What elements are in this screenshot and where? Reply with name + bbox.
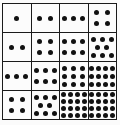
dot-cell-r4c3	[60, 91, 88, 119]
dot	[105, 21, 110, 26]
dot	[68, 92, 73, 97]
dot-grid	[2, 3, 117, 120]
dot	[80, 66, 85, 71]
dot	[5, 74, 10, 79]
dot	[96, 106, 101, 111]
dot	[43, 111, 48, 116]
dot	[104, 45, 109, 50]
dot-row	[37, 39, 53, 44]
dot-row	[61, 92, 87, 97]
dot	[48, 16, 53, 21]
dot-cell-r1c1	[3, 4, 31, 32]
dot	[94, 10, 99, 15]
dot	[48, 50, 53, 55]
dot-row	[37, 16, 53, 21]
dot	[109, 53, 114, 58]
dot	[96, 82, 101, 87]
dot	[23, 74, 28, 79]
dot	[61, 92, 66, 97]
dot	[52, 79, 57, 84]
dot	[61, 113, 66, 118]
dot-row	[62, 74, 85, 79]
dot-cell-r1c3	[60, 4, 88, 32]
dot	[37, 16, 42, 21]
dot	[96, 74, 101, 79]
dot-cell-r1c2	[32, 4, 60, 32]
dot	[34, 79, 39, 84]
dot-row	[38, 103, 52, 108]
dot	[9, 108, 14, 113]
dot	[96, 92, 101, 97]
dot	[80, 50, 85, 55]
dot	[62, 39, 67, 44]
dot-row	[89, 66, 115, 71]
dot	[14, 74, 19, 79]
dot	[80, 39, 85, 44]
dot-row	[62, 50, 85, 55]
dot	[103, 66, 108, 71]
dot	[37, 39, 42, 44]
dot-cell-r3c4	[89, 62, 117, 90]
dot	[14, 16, 19, 21]
dot-row	[89, 113, 115, 118]
dot	[43, 79, 48, 84]
dot	[75, 99, 80, 104]
dot	[89, 92, 94, 97]
dot	[103, 113, 108, 118]
dot-row	[91, 53, 114, 58]
dot	[68, 99, 73, 104]
dot	[109, 37, 114, 42]
dot-cell-r2c1	[3, 33, 31, 61]
dot	[110, 74, 115, 79]
dot	[75, 113, 80, 118]
dot-row	[61, 99, 87, 104]
dot	[71, 16, 76, 21]
dot	[34, 111, 39, 116]
dot	[62, 74, 67, 79]
dot	[91, 37, 96, 42]
dot-row	[34, 79, 57, 84]
dot	[89, 113, 94, 118]
dot	[89, 74, 94, 79]
figure-frame	[2, 3, 117, 120]
dot	[82, 92, 87, 97]
dot-row	[62, 82, 85, 87]
dot-row	[62, 66, 85, 71]
dot-row	[61, 106, 87, 111]
dot-cell-r4c4	[89, 91, 117, 119]
dot	[38, 103, 43, 108]
dot	[89, 82, 94, 87]
dot	[105, 10, 110, 15]
dot-row	[89, 99, 115, 104]
dot	[103, 106, 108, 111]
dot	[62, 66, 67, 71]
dot	[80, 82, 85, 87]
dot	[68, 113, 73, 118]
dot	[71, 66, 76, 71]
dot	[100, 37, 105, 42]
dot-row	[5, 74, 28, 79]
dot	[71, 50, 76, 55]
dot	[71, 82, 76, 87]
dot	[52, 95, 57, 100]
dot-cell-r4c1	[3, 91, 31, 119]
dot	[110, 106, 115, 111]
dot-cell-r2c3	[60, 33, 88, 61]
dot-row	[9, 97, 25, 102]
dot-cell-r4c2	[32, 91, 60, 119]
dot	[110, 99, 115, 104]
dot	[103, 99, 108, 104]
dot	[75, 92, 80, 97]
dot	[9, 45, 14, 50]
dot-row	[34, 111, 57, 116]
dot	[103, 82, 108, 87]
dot-row	[94, 10, 110, 15]
dot-row	[89, 74, 115, 79]
dot	[62, 50, 67, 55]
dot-cell-r3c2	[32, 62, 60, 90]
dot	[61, 106, 66, 111]
dot	[110, 92, 115, 97]
dot	[62, 82, 67, 87]
dot	[20, 97, 25, 102]
dot-row	[89, 106, 115, 111]
